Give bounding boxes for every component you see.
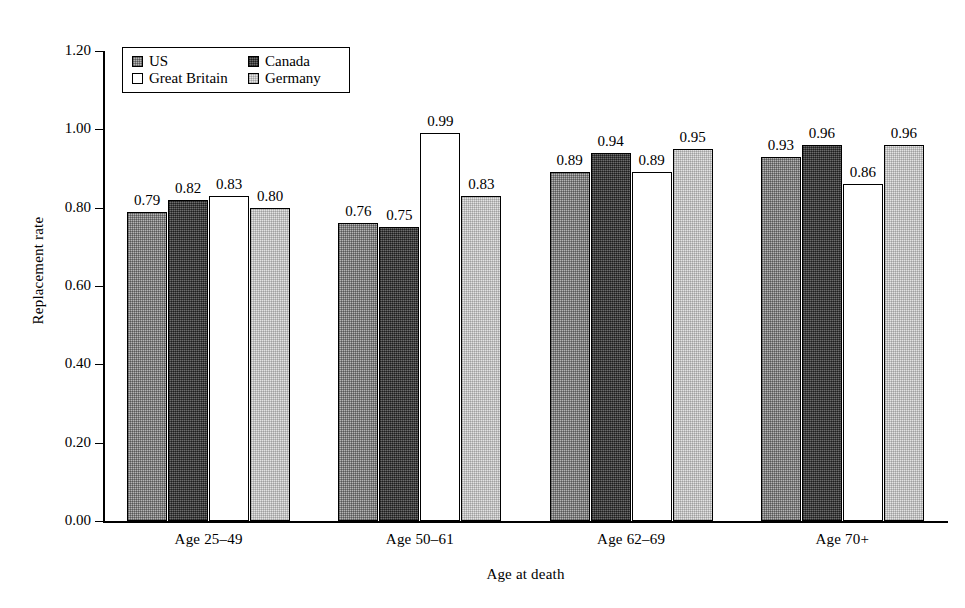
bar-great-britain-1 [209, 196, 249, 521]
plot-area: 0.790.820.830.800.760.750.990.830.890.94… [103, 51, 948, 521]
y-axis-tick-mark [95, 208, 103, 209]
legend-swatch-canada-icon [248, 56, 259, 67]
legend: US Canada Great Britain Germany [122, 47, 350, 93]
category-label-3: Age 62–69 [526, 531, 737, 548]
legend-item-great-britain: Great Britain [132, 71, 248, 86]
category-label-4: Age 70+ [737, 531, 948, 548]
bar-value-label: 0.86 [837, 165, 889, 180]
bar-value-label: 0.99 [414, 114, 466, 129]
bar-canada-4 [802, 145, 842, 521]
bar-value-label: 0.96 [796, 126, 848, 141]
bar-germany-2 [461, 196, 501, 521]
bar-canada-3 [591, 153, 631, 521]
bar-value-label: 0.94 [585, 134, 637, 149]
y-axis-tick-mark [95, 521, 103, 522]
bar-value-label: 0.95 [667, 130, 719, 145]
legend-label-great-britain: Great Britain [149, 71, 228, 86]
bar-great-britain-4 [843, 184, 883, 521]
y-axis-tick-mark [95, 364, 103, 365]
legend-label-canada: Canada [265, 54, 310, 69]
y-axis-tick-label: 0.00 [39, 513, 91, 528]
category-label-1: Age 25–49 [103, 531, 314, 548]
bar-germany-4 [884, 145, 924, 521]
bar-great-britain-2 [420, 133, 460, 521]
legend-item-canada: Canada [248, 54, 360, 69]
legend-swatch-germany-icon [248, 73, 259, 84]
bar-us-4 [761, 157, 801, 521]
y-axis-tick-label: 1.00 [39, 121, 91, 136]
bar-value-label: 0.89 [544, 153, 596, 168]
bar-us-3 [550, 172, 590, 521]
legend-label-germany: Germany [265, 71, 321, 86]
bar-value-label: 0.80 [244, 189, 296, 204]
y-axis-tick-mark [95, 443, 103, 444]
bar-canada-1 [168, 200, 208, 521]
y-axis-tick-label: 0.80 [39, 200, 91, 215]
bar-value-label: 0.89 [626, 153, 678, 168]
legend-swatch-us-icon [132, 56, 143, 67]
legend-item-us: US [132, 54, 248, 69]
bar-us-1 [127, 212, 167, 521]
y-axis-tick-mark [95, 129, 103, 130]
bar-value-label: 0.75 [373, 208, 425, 223]
y-axis-tick-mark [95, 286, 103, 287]
x-axis-line [103, 521, 948, 523]
y-axis-tick-label: 1.20 [39, 43, 91, 58]
legend-swatch-great-britain-icon [132, 73, 143, 84]
bar-canada-2 [379, 227, 419, 521]
bar-great-britain-3 [632, 172, 672, 521]
bar-germany-3 [673, 149, 713, 521]
y-axis-tick-label: 0.60 [39, 278, 91, 293]
bar-value-label: 0.83 [455, 177, 507, 192]
category-label-2: Age 50–61 [314, 531, 525, 548]
bar-chart: Replacement rate 0.000.200.400.600.801.0… [0, 0, 965, 608]
y-axis-tick-label: 0.20 [39, 435, 91, 450]
y-axis-tick-label: 0.40 [39, 356, 91, 371]
legend-label-us: US [149, 54, 168, 69]
y-axis-tick-mark [95, 51, 103, 52]
bar-germany-1 [250, 208, 290, 521]
bar-value-label: 0.96 [878, 126, 930, 141]
x-axis-label: Age at death [103, 566, 948, 583]
bar-us-2 [338, 223, 378, 521]
legend-item-germany: Germany [248, 71, 360, 86]
